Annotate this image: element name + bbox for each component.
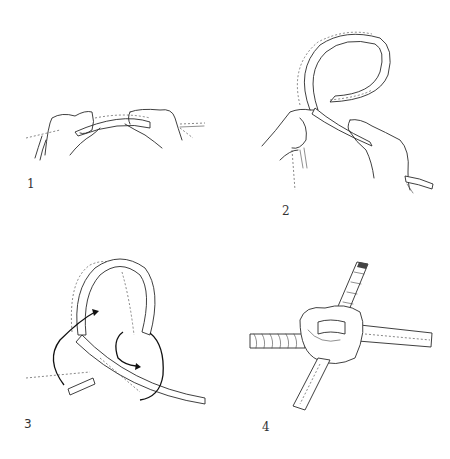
panel-1-illustration xyxy=(26,109,205,160)
illustration: 1 2 xyxy=(0,0,450,459)
knot-diagram: 1 2 xyxy=(0,0,450,459)
step-label-3: 3 xyxy=(24,417,32,431)
panel-4-illustration xyxy=(250,262,432,410)
step-label-4: 4 xyxy=(262,420,270,434)
panel-3-illustration xyxy=(26,259,205,404)
step-label-2: 2 xyxy=(282,204,290,218)
panel-2-illustration xyxy=(262,32,433,193)
step-label-1: 1 xyxy=(27,177,35,191)
